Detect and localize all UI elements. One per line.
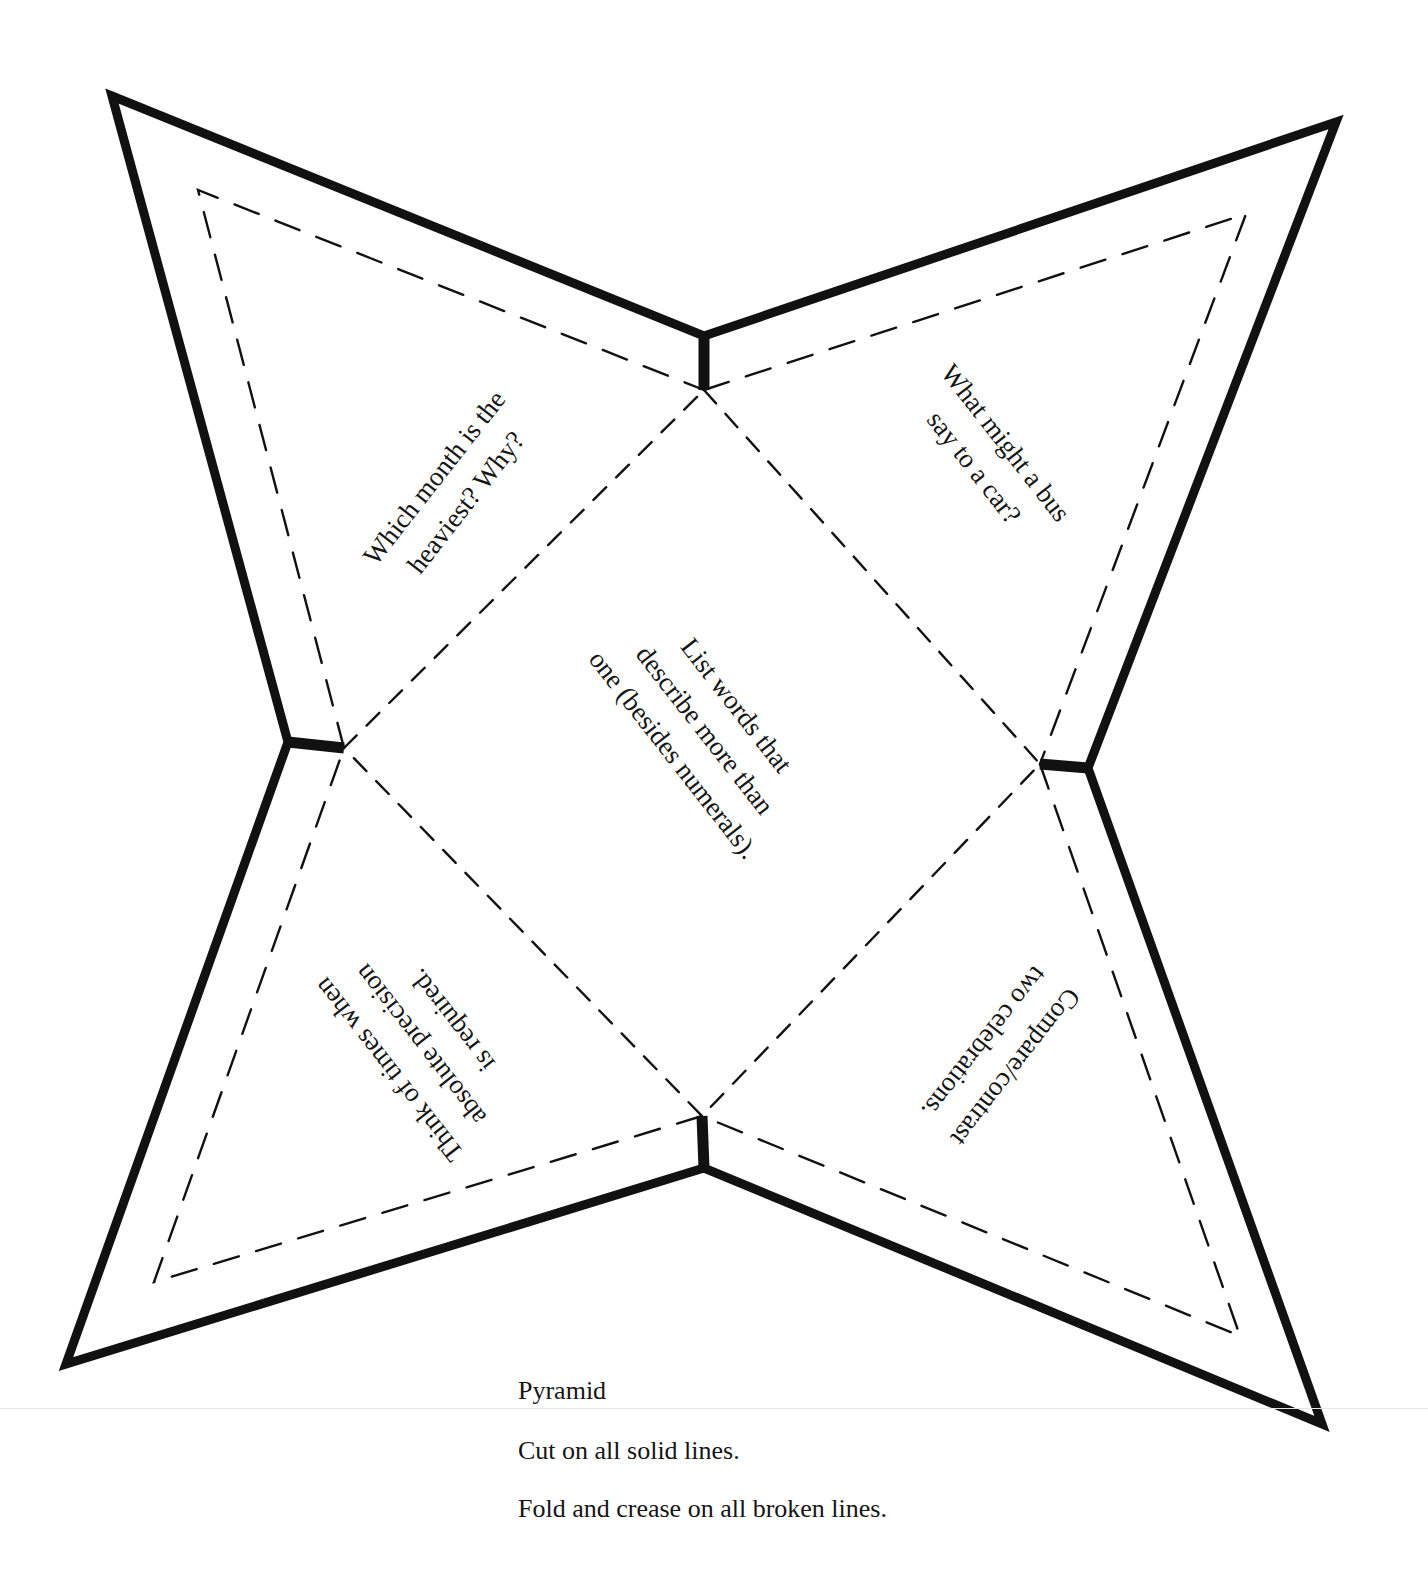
caption-cut-instruction: Cut on all solid lines. [518,1436,740,1466]
scan-artifact-line [0,1408,1428,1409]
caption-title: Pyramid [518,1376,606,1406]
caption-fold-instruction: Fold and crease on all broken lines. [518,1494,887,1524]
tab-bottom [702,1116,704,1168]
tab-left [288,742,344,748]
tab-right [1040,764,1088,768]
